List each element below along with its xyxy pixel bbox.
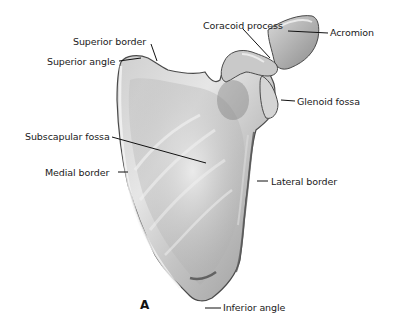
label-coracoid-process: Coracoid process <box>203 21 283 31</box>
label-lateral-border: Lateral border <box>271 177 337 187</box>
label-superior-border: Superior border <box>73 37 146 47</box>
label-subscapular-fossa: Subscapular fossa <box>25 132 110 142</box>
scapula-body <box>117 55 275 300</box>
label-inferior-angle: Inferior angle <box>223 303 285 313</box>
label-medial-border: Medial border <box>45 168 109 178</box>
panel-letter: A <box>140 298 149 312</box>
leader-superior-border <box>151 44 157 61</box>
leader-glenoid-fossa <box>281 100 295 101</box>
label-acromion: Acromion <box>330 28 374 38</box>
label-glenoid-fossa: Glenoid fossa <box>297 97 360 107</box>
label-superior-angle: Superior angle <box>47 57 115 67</box>
